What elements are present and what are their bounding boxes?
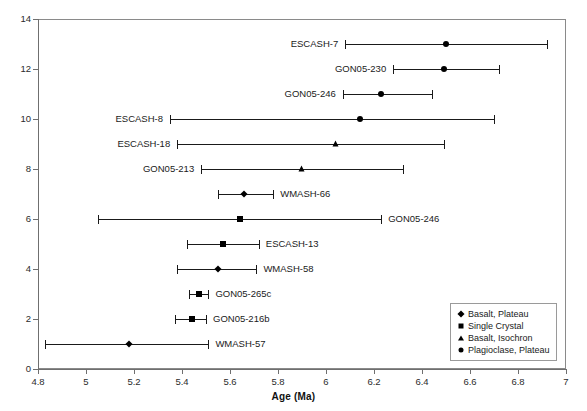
x-tick <box>470 369 471 374</box>
x-tick <box>230 369 231 374</box>
x-tick-label: 7 <box>546 377 586 387</box>
error-bar-cap-high <box>256 265 257 274</box>
y-tick <box>33 269 38 270</box>
error-bar-cap-low <box>187 240 188 249</box>
error-bar-cap-low <box>189 290 190 299</box>
error-bar-cap-low <box>170 115 171 124</box>
data-marker-triangle[interactable] <box>332 141 338 147</box>
data-marker-circle[interactable] <box>378 91 384 97</box>
y-tick-label: 0 <box>5 364 31 374</box>
error-bar-cap-high <box>547 40 548 49</box>
x-tick-label: 4.8 <box>18 377 58 387</box>
x-tick <box>278 369 279 374</box>
error-bar-cap-low <box>98 215 99 224</box>
x-tick <box>86 369 87 374</box>
y-tick-label: 2 <box>5 314 31 324</box>
data-point-label: ESCASH-7 <box>291 39 339 49</box>
x-tick <box>182 369 183 374</box>
error-bar-cap-low <box>45 340 46 349</box>
y-tick <box>33 219 38 220</box>
error-bar-cap-high <box>206 315 207 324</box>
error-bar <box>177 144 443 145</box>
legend-marker-triangle-icon <box>456 332 466 344</box>
x-tick-label: 5.2 <box>114 377 154 387</box>
y-tick-label: 10 <box>5 114 31 124</box>
x-tick-label: 6.4 <box>402 377 442 387</box>
data-marker-square[interactable] <box>237 216 243 222</box>
error-bar-cap-low <box>201 165 202 174</box>
y-tick <box>33 319 38 320</box>
y-axis-line <box>38 19 39 369</box>
data-marker-square[interactable] <box>189 316 195 322</box>
x-tick-label: 6 <box>306 377 346 387</box>
legend-item[interactable]: Basalt, Isochron <box>456 332 551 344</box>
x-tick-label: 6.2 <box>354 377 394 387</box>
x-tick <box>518 369 519 374</box>
data-point-label: ESCASH-18 <box>117 139 170 149</box>
data-point-label: GON05-216b <box>213 314 270 324</box>
y-tick-label: 4 <box>5 264 31 274</box>
legend-label: Basalt, Plateau <box>468 309 529 319</box>
error-bar-cap-low <box>218 190 219 199</box>
legend-marker-square-icon <box>456 320 466 332</box>
legend-label: Plagioclase, Plateau <box>468 345 550 355</box>
data-marker-circle[interactable] <box>443 41 449 47</box>
x-tick <box>38 369 39 374</box>
error-bar-cap-high <box>259 240 260 249</box>
x-tick <box>566 369 567 374</box>
data-marker-square[interactable] <box>196 291 202 297</box>
error-bar-cap-high <box>444 140 445 149</box>
x-tick-label: 5.4 <box>162 377 202 387</box>
error-bar-cap-high <box>432 90 433 99</box>
legend-item[interactable]: Basalt, Plateau <box>456 308 551 320</box>
error-bar-cap-low <box>177 265 178 274</box>
legend-marker-circle-icon <box>456 344 466 356</box>
legend-marker-diamond-icon <box>456 308 466 320</box>
error-bar-cap-high <box>381 215 382 224</box>
legend-item[interactable]: Single Crystal <box>456 320 551 332</box>
data-point-label: WMASH-58 <box>263 264 313 274</box>
x-tick <box>422 369 423 374</box>
data-marker-circle[interactable] <box>357 116 363 122</box>
data-point-label: GON05-213 <box>143 164 194 174</box>
x-axis-title: Age (Ma) <box>0 391 587 402</box>
data-marker-triangle[interactable] <box>299 166 305 172</box>
x-axis-line <box>38 369 566 370</box>
error-bar-cap-low <box>393 65 394 74</box>
error-bar-cap-high <box>499 65 500 74</box>
x-tick-label: 5 <box>66 377 106 387</box>
error-bar-cap-low <box>177 140 178 149</box>
data-marker-circle[interactable] <box>441 66 447 72</box>
data-point-label: GON05-246 <box>285 89 336 99</box>
error-bar-cap-low <box>345 40 346 49</box>
error-bar-cap-high <box>403 165 404 174</box>
x-tick <box>374 369 375 374</box>
x-tick-label: 5.6 <box>210 377 250 387</box>
y-tick-label: 14 <box>5 14 31 24</box>
legend: Basalt, PlateauSingle CrystalBasalt, Iso… <box>450 303 557 361</box>
data-point-label: GON05-230 <box>335 64 386 74</box>
error-bar-cap-high <box>273 190 274 199</box>
x-tick-label: 6.8 <box>498 377 538 387</box>
y-tick-label: 6 <box>5 214 31 224</box>
error-bar-cap-high <box>494 115 495 124</box>
data-marker-square[interactable] <box>220 241 226 247</box>
data-point-label: GON05-265c <box>215 289 271 299</box>
y-tick <box>33 169 38 170</box>
x-tick-label: 6.6 <box>450 377 490 387</box>
error-bar-cap-high <box>208 290 209 299</box>
x-tick <box>326 369 327 374</box>
legend-label: Single Crystal <box>468 321 524 331</box>
legend-item[interactable]: Plagioclase, Plateau <box>456 344 551 356</box>
y-tick <box>33 19 38 20</box>
legend-label: Basalt, Isochron <box>468 333 533 343</box>
error-bar-cap-low <box>343 90 344 99</box>
error-bar <box>343 94 432 95</box>
y-tick <box>33 69 38 70</box>
y-tick-label: 12 <box>5 64 31 74</box>
data-point-label: WMASH-57 <box>215 339 265 349</box>
data-point-label: WMASH-66 <box>280 189 330 199</box>
y-tick-label: 8 <box>5 164 31 174</box>
data-point-label: ESCASH-13 <box>266 239 319 249</box>
age-spectrum-chart: 02468101214 4.855.25.45.65.866.26.46.66.… <box>0 0 587 411</box>
